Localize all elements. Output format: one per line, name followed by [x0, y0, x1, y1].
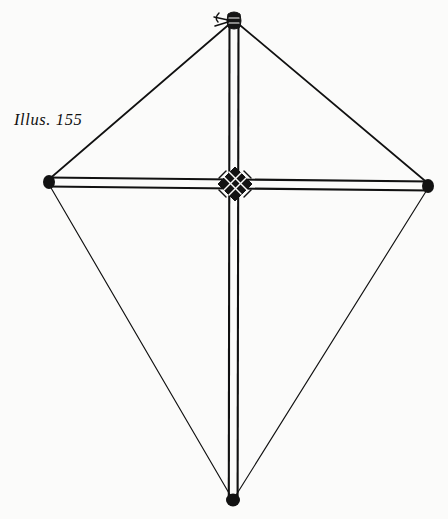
right-tip-knob [422, 179, 434, 193]
center-cross-lashing [218, 167, 252, 201]
figure-caption: Illus. 155 [14, 110, 82, 130]
vertical-spine [229, 20, 239, 500]
spine-rail-left [229, 20, 230, 500]
kite-frame-diagram [0, 0, 448, 519]
lashing-body [218, 167, 252, 201]
upper-right-edge [235, 21, 430, 185]
bridle-loop [214, 13, 228, 26]
left-tip-knob [43, 175, 55, 189]
bottom-tip-knob [226, 494, 240, 507]
knot-collar [227, 12, 241, 29]
lower-right-edge [233, 185, 430, 500]
lower-left-edge [47, 181, 233, 500]
top-lashing-knot [214, 12, 241, 29]
figure-container: Illus. 155 [0, 0, 448, 519]
upper-left-edge [47, 21, 233, 181]
spine-rail-right [238, 20, 239, 500]
